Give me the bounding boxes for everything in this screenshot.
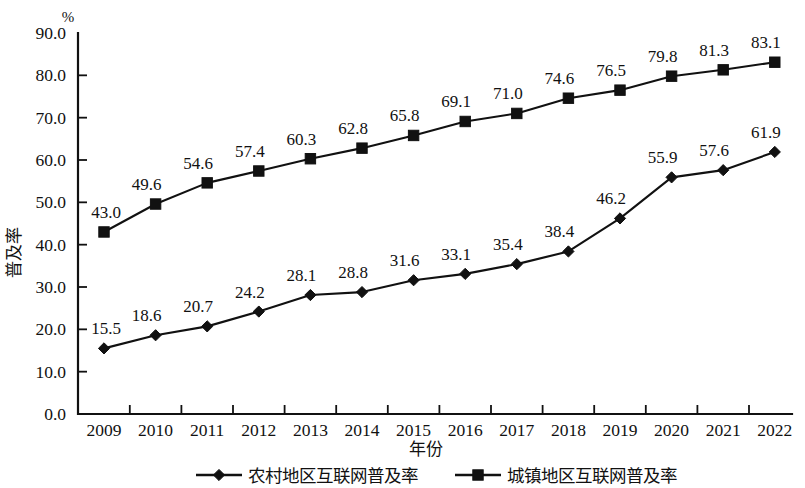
y-tick-label: 40.0 — [35, 235, 66, 255]
data-point-marker — [408, 130, 418, 140]
data-point-marker — [770, 57, 780, 67]
x-tick-label: 2013 — [293, 420, 328, 440]
data-point-marker — [615, 85, 625, 95]
data-point-label: 60.3 — [287, 130, 317, 149]
data-point-label: 49.6 — [132, 175, 162, 194]
x-tick-label: 2020 — [654, 420, 689, 440]
data-point-label: 18.6 — [132, 306, 162, 325]
data-point-marker — [460, 268, 471, 279]
data-point-label: 20.7 — [183, 297, 213, 316]
data-point-label: 28.1 — [287, 266, 317, 285]
data-point-marker — [202, 178, 212, 188]
data-point-marker — [460, 116, 470, 126]
y-tick-label: 30.0 — [35, 277, 66, 297]
data-point-label: 35.4 — [493, 235, 523, 254]
x-tick-label: 2019 — [603, 420, 638, 440]
data-point-label: 24.2 — [235, 283, 265, 302]
data-point-marker — [305, 289, 316, 300]
data-point-label: 54.6 — [183, 154, 213, 173]
data-point-label: 57.6 — [699, 141, 729, 160]
chart-legend: 农村地区互联网普及率城镇地区互联网普及率 — [196, 466, 677, 486]
data-point-marker — [718, 65, 728, 75]
data-point-marker — [356, 286, 367, 297]
x-tick-label: 2011 — [190, 420, 224, 440]
y-axis-title: 普及率 — [5, 227, 24, 278]
data-point-label: 33.1 — [441, 245, 471, 264]
data-point-label: 28.8 — [338, 263, 368, 282]
data-point-marker — [305, 154, 315, 164]
data-point-label: 43.0 — [91, 203, 121, 222]
data-point-marker — [511, 259, 522, 270]
data-point-marker — [150, 199, 160, 209]
x-tick-label: 2012 — [241, 420, 276, 440]
x-tick-label: 2014 — [345, 420, 380, 440]
data-point-label: 55.9 — [648, 148, 678, 167]
data-point-label: 79.8 — [648, 47, 678, 66]
data-point-label: 74.6 — [545, 69, 575, 88]
legend-marker-diamond-icon — [213, 469, 224, 480]
data-point-marker — [666, 71, 676, 81]
data-point-label: 61.9 — [751, 123, 781, 142]
data-point-marker — [253, 306, 264, 317]
data-point-label: 71.0 — [493, 84, 523, 103]
data-point-marker — [718, 165, 729, 176]
y-tick-label: 50.0 — [35, 192, 66, 212]
line-chart: % 普及率 年份 90.080.070.060.050.040.030.020.… — [0, 0, 805, 488]
data-point-marker — [98, 343, 109, 354]
y-tick-label: 60.0 — [35, 150, 66, 170]
series-line-2 — [104, 62, 775, 232]
data-point-label: 81.3 — [699, 41, 729, 60]
x-tick-label: 2021 — [706, 420, 741, 440]
data-point-label: 62.8 — [338, 119, 368, 138]
x-axis-ticks: 2009201020112012201320142015201620172018… — [87, 405, 793, 440]
x-tick-label: 2022 — [757, 420, 792, 440]
y-tick-label: 0.0 — [44, 404, 66, 424]
data-point-label: 38.4 — [545, 222, 575, 241]
chart-page: % 普及率 年份 90.080.070.060.050.040.030.020.… — [0, 0, 805, 488]
y-tick-label: 10.0 — [35, 362, 66, 382]
data-point-marker — [99, 227, 109, 237]
x-tick-label: 2016 — [448, 420, 483, 440]
x-tick-label: 2015 — [396, 420, 431, 440]
data-point-marker — [254, 166, 264, 176]
data-point-label: 69.1 — [441, 92, 471, 111]
chart-axes — [78, 33, 792, 414]
data-point-marker — [769, 146, 780, 157]
data-point-label: 31.6 — [390, 251, 420, 270]
x-tick-label: 2017 — [499, 420, 534, 440]
data-point-label: 83.1 — [751, 33, 781, 52]
data-point-label: 76.5 — [596, 61, 626, 80]
y-axis-ticks: 90.080.070.060.050.040.030.020.010.00.0 — [35, 23, 87, 424]
data-point-label: 15.5 — [91, 319, 121, 338]
data-point-marker — [150, 330, 161, 341]
legend-marker-square-icon — [473, 470, 483, 480]
data-point-marker — [563, 246, 574, 257]
data-point-label: 46.2 — [596, 189, 626, 208]
y-tick-label: 20.0 — [35, 319, 66, 339]
data-point-marker — [563, 93, 573, 103]
data-point-marker — [357, 143, 367, 153]
legend-label: 农村地区互联网普及率 — [248, 466, 418, 486]
x-tick-label: 2009 — [87, 420, 122, 440]
data-point-label: 65.8 — [390, 106, 420, 125]
data-point-marker — [202, 321, 213, 332]
data-point-marker — [512, 108, 522, 118]
legend-label: 城镇地区互联网普及率 — [507, 466, 677, 486]
y-tick-label: 80.0 — [35, 65, 66, 85]
x-tick-label: 2010 — [138, 420, 173, 440]
x-axis-title: 年份 — [409, 440, 443, 459]
y-tick-label: 90.0 — [35, 23, 66, 43]
x-tick-label: 2018 — [551, 420, 586, 440]
data-point-marker — [408, 275, 419, 286]
data-point-label: 57.4 — [235, 142, 265, 161]
y-tick-label: 70.0 — [35, 108, 66, 128]
